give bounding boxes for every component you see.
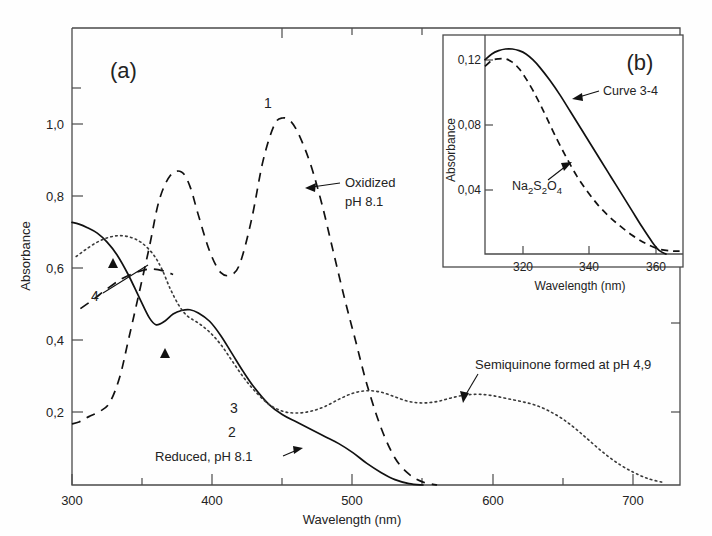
na2s2o4-part-s: S: [533, 179, 541, 193]
figure-container: 1,0 0,8 0,6 0,4 0,2 Absorbance: [0, 0, 712, 536]
y-tick-label-0.8: 0,8: [46, 189, 64, 204]
annotation-semiquinone: Semiquinone formed at pH 4,9: [460, 357, 651, 403]
x-tick-label-400: 400: [201, 493, 223, 508]
inset-y-tick-label-0.08: 0,08: [458, 118, 482, 132]
na2s2o4-part-na: Na: [512, 179, 528, 193]
inline-arrow-markers: [103, 258, 170, 358]
x-tick-label-600: 600: [482, 493, 504, 508]
reduced-label: Reduced, pH 8.1: [155, 449, 253, 464]
x-tick-label-300: 300: [61, 493, 83, 508]
inset-x-tick-label-340: 340: [579, 260, 599, 274]
x-tick-label-500: 500: [341, 493, 363, 508]
inset-y-tick-label-0.12: 0,12: [458, 53, 482, 67]
curve-3-4-label: Curve 3-4: [603, 84, 658, 98]
figure-svg: 1,0 0,8 0,6 0,4 0,2 Absorbance: [0, 0, 712, 536]
annotation-reduced: Reduced, pH 8.1: [155, 446, 303, 464]
inset-x-tick-label-320: 320: [513, 260, 533, 274]
oxidized-label-line1: Oxidized: [345, 175, 396, 190]
y-tick-label-0.6: 0,6: [46, 261, 64, 276]
curve-1-oxidized: [72, 118, 437, 485]
inset-y-tick-label-0.04: 0,04: [458, 183, 482, 197]
panel-b-y-axis-title: Absorbance: [444, 118, 458, 182]
curve-label-4: 4: [91, 288, 99, 304]
panel-b-x-axis-title: Wavelength (nm): [535, 279, 626, 293]
na2s2o4-part-o: O: [547, 179, 557, 193]
panel-a-x-axis-title: Wavelength (nm): [303, 512, 402, 527]
na2s2o4-sub-4: 4: [557, 185, 562, 196]
reduced-arrowhead: [293, 446, 303, 454]
oxidized-label-line2: pH 8.1: [345, 194, 383, 209]
inset-x-tick-label-360: 360: [646, 260, 666, 274]
arrow-marker-lower: [160, 348, 170, 358]
panel-a-y-axis: 1,0 0,8 0,6 0,4 0,2 Absorbance: [18, 88, 83, 420]
annotation-oxidized: Oxidized pH 8.1: [305, 175, 396, 209]
panel-b-inset: 0,12 0,08 0,04 Absorbance 320 340 360 Wa…: [443, 35, 683, 293]
semiquinone-label: Semiquinone formed at pH 4,9: [475, 357, 651, 372]
curve-label-2: 2: [228, 424, 236, 440]
curve-2-reduced: [72, 222, 423, 485]
semiquinone-arrowhead: [460, 391, 469, 403]
x-tick-label-700: 700: [622, 493, 644, 508]
y-tick-label-1.0: 1,0: [46, 117, 64, 132]
panel-a-y-axis-title: Absorbance: [18, 221, 33, 290]
oxidized-arrowhead: [305, 183, 316, 192]
panel-b-label: (b): [627, 50, 654, 75]
y-tick-label-0.4: 0,4: [46, 333, 64, 348]
y-tick-label-0.2: 0,2: [46, 405, 64, 420]
panel-a-label: (a): [110, 58, 137, 83]
arrow-marker-upper: [108, 258, 118, 268]
curve-label-3: 3: [230, 400, 238, 416]
curve-label-1: 1: [264, 95, 272, 111]
